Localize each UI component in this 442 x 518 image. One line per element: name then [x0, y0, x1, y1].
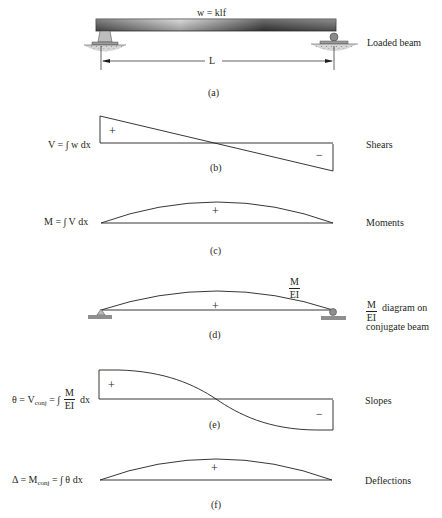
moment-positive-sign: +: [212, 205, 219, 217]
deflections-label: Deflections: [365, 476, 411, 486]
caption-d: (d): [209, 330, 221, 340]
shear-positive-sign: +: [109, 125, 116, 137]
pin-support-icon: [84, 31, 126, 52]
diagram-canvas: [0, 0, 442, 518]
shear-negative-sign: −: [316, 149, 323, 161]
m-over-ei-label: M EI: [366, 300, 377, 323]
deflection-equation: Δ = Mconj = ∫ θ dx: [12, 475, 83, 487]
deflection-positive-sign: +: [211, 462, 218, 474]
caption-a: (a): [208, 88, 219, 98]
conjugate-beam-label: conjugate beam: [366, 322, 429, 332]
curve-m-over-ei-label: M EI: [289, 277, 300, 300]
roller-support-icon: [311, 33, 358, 51]
conjugate-pin-support-icon: [88, 309, 112, 319]
caption-c: (c): [210, 246, 221, 256]
diagram-on-label: diagram on: [382, 303, 427, 313]
panel-a-loaded-beam: [84, 19, 358, 70]
span-label: L: [209, 56, 215, 66]
moment-equation: M = ∫ V dx: [44, 217, 88, 227]
slope-equation-dx: dx: [80, 395, 90, 405]
slope-negative-sign: −: [316, 408, 323, 420]
slope-equation: θ = Vconj = ∫: [12, 395, 60, 407]
load-label: w = klf: [197, 8, 226, 18]
moments-label: Moments: [366, 218, 404, 228]
span-dimension: [101, 46, 334, 70]
slopes-label: Slopes: [365, 396, 392, 406]
caption-b: (b): [210, 163, 222, 173]
caption-f: (f): [211, 500, 221, 510]
slope-equation-fraction: M EI: [64, 388, 75, 411]
slope-positive-sign: +: [108, 379, 115, 391]
loaded-beam-label: Loaded beam: [367, 38, 421, 48]
shears-label: Shears: [366, 140, 393, 150]
shear-equation: V = ∫ w dx: [48, 140, 91, 150]
conjugate-positive-sign: +: [212, 300, 219, 312]
caption-e: (e): [209, 420, 220, 430]
